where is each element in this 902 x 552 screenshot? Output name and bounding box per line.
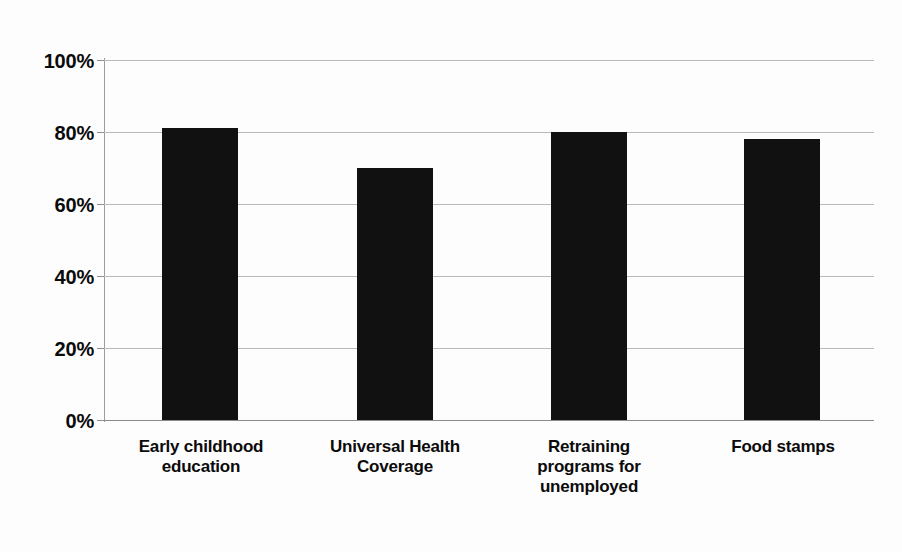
x-axis-label-line: Early childhood xyxy=(104,437,298,457)
x-axis-label-retraining-programs-for-unemployed: Retraining programs for unemployed xyxy=(492,437,686,497)
y-axis-tick-mark xyxy=(97,204,104,205)
y-axis-tick-label: 100% xyxy=(8,51,94,71)
x-axis-label-universal-health-coverage: Universal Health Coverage xyxy=(298,437,492,477)
x-axis-label-line: Food stamps xyxy=(686,437,880,457)
plot-area xyxy=(104,60,874,420)
y-axis-tick-mark xyxy=(97,276,104,277)
y-axis-tick-label: 0% xyxy=(8,411,94,431)
x-axis-label-line: Universal Health xyxy=(298,437,492,457)
y-axis-tick-label: 20% xyxy=(8,339,94,359)
x-axis-label-food-stamps: Food stamps xyxy=(686,437,880,457)
x-axis-label-line: education xyxy=(104,457,298,477)
bar-chart: 100% 80% 60% 40% 20% 0% Early childhood … xyxy=(0,0,902,552)
y-axis-tick-mark xyxy=(97,420,104,421)
x-axis-label-line: Coverage xyxy=(298,457,492,477)
y-axis-tick-label: 40% xyxy=(8,267,94,287)
gridline-100 xyxy=(104,60,874,61)
x-axis-label-line: Retraining xyxy=(492,437,686,457)
bar-food-stamps xyxy=(744,139,820,420)
x-axis-label-early-childhood-education: Early childhood education xyxy=(104,437,298,477)
y-axis-tick-mark xyxy=(97,348,104,349)
y-axis-tick-mark xyxy=(97,132,104,133)
x-axis-line xyxy=(104,420,874,421)
y-axis-tick-mark xyxy=(97,60,104,61)
x-axis-label-line: unemployed xyxy=(492,477,686,497)
x-axis-label-line: programs for xyxy=(492,457,686,477)
bar-universal-health-coverage xyxy=(357,168,433,420)
bar-retraining-programs-for-unemployed xyxy=(551,132,627,420)
y-axis-tick-label: 60% xyxy=(8,195,94,215)
y-axis-tick-label: 80% xyxy=(8,123,94,143)
bar-early-childhood-education xyxy=(162,128,238,420)
